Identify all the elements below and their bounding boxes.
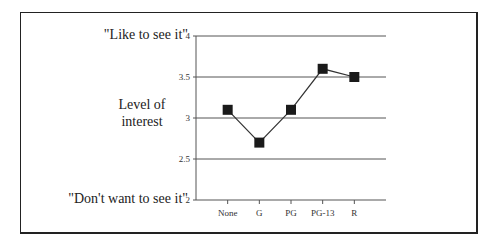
x-tick-label: PG: [285, 208, 297, 218]
x-tick-label: PG-13: [311, 208, 335, 218]
data-point-marker: [286, 105, 296, 115]
x-tick-label: R: [351, 208, 357, 218]
x-tick-label: G: [256, 208, 263, 218]
data-point-marker: [349, 72, 359, 82]
y-tick-label: 3.5: [179, 72, 191, 82]
y-tick-label: 4: [186, 31, 191, 41]
x-tick-label: None: [218, 208, 238, 218]
y-tick-label: 2: [186, 195, 191, 205]
data-point-marker: [254, 138, 264, 148]
data-point-marker: [223, 105, 233, 115]
y-tick-label: 2.5: [179, 154, 191, 164]
data-point-marker: [318, 64, 328, 74]
y-tick-label: 3: [186, 113, 191, 123]
line-chart: 22.533.54NoneGPGPG-13R: [0, 0, 493, 244]
